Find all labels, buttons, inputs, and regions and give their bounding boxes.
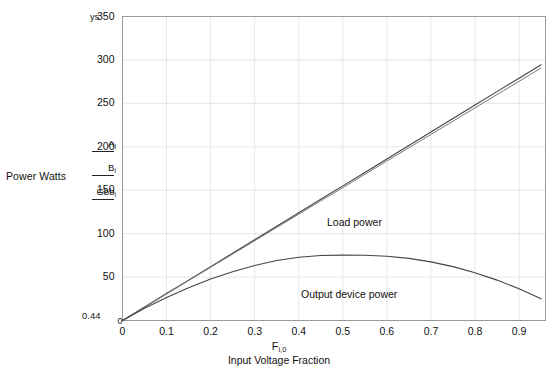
x-axis-label: Input Voltage Fraction (0, 354, 558, 366)
x-tick-0.1: 0.1 (152, 325, 182, 337)
x-tick-0.6: 0.6 (372, 325, 402, 337)
y-tick-250: 250 (81, 96, 115, 108)
y-tick-100: 100 (81, 227, 115, 239)
legend-label-b: Bi (108, 162, 116, 173)
y-tick-350: 350 (81, 10, 115, 22)
legend-swatch-gbb (92, 199, 114, 200)
y-axis-label: Power Watts (6, 170, 66, 182)
x-tick-0.7: 0.7 (416, 325, 446, 337)
x-tick-0.3: 0.3 (240, 325, 270, 337)
x-tick-0.2: 0.2 (196, 325, 226, 337)
x-tick-0.5: 0.5 (328, 325, 358, 337)
legend-swatch-b (92, 175, 114, 176)
x-tick-0: 0 (108, 325, 138, 337)
x-tick-0.4: 0.4 (284, 325, 314, 337)
x-tick-0.9: 0.9 (504, 325, 534, 337)
x-tick-0.8: 0.8 (460, 325, 490, 337)
y-tick-150: 150 (81, 183, 115, 195)
y-tick-300: 300 (81, 53, 115, 65)
power-watts-chart: Power Watts ys 0.44 Ai Bi Gbbi 050100150… (0, 0, 558, 377)
annotation-load-power: Load power (327, 216, 382, 228)
annotation-output-device-power: Output device power (301, 288, 397, 300)
x-axis-variable: Fi,0 (0, 340, 558, 352)
y-tick-200: 200 (81, 140, 115, 152)
y-tick-50: 50 (81, 270, 115, 282)
